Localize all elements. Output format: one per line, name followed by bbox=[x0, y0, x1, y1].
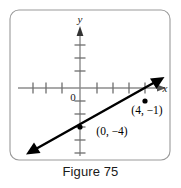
origin-label: 0 bbox=[70, 91, 76, 103]
frame-border bbox=[10, 10, 170, 160]
figure-container: y x 0 (4, −1) (0, −4) Figure 75 bbox=[0, 0, 181, 188]
figure-caption: Figure 75 bbox=[0, 164, 181, 179]
data-point-0-neg4 bbox=[77, 124, 82, 129]
point-label-0-neg4: (0, −4) bbox=[96, 125, 128, 138]
x-axis-label: x bbox=[162, 82, 168, 94]
plot-frame: y x 0 (4, −1) (0, −4) bbox=[9, 9, 171, 161]
point-label-4-neg1: (4, −1) bbox=[131, 104, 163, 117]
y-axis-label: y bbox=[77, 13, 83, 25]
data-point-4-neg1 bbox=[142, 98, 147, 103]
coordinate-plane: y x 0 (4, −1) (0, −4) bbox=[9, 9, 171, 161]
